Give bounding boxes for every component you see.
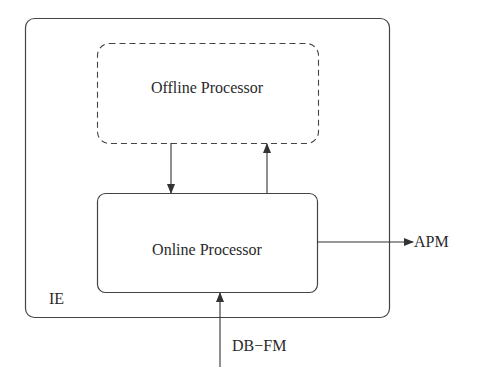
apm-label: APM <box>414 234 449 250</box>
ie-container-box <box>26 19 390 318</box>
diagram-canvas <box>0 0 481 387</box>
ie-container-label: IE <box>49 291 64 307</box>
offline-processor-label: Offline Processor <box>151 80 263 96</box>
dbfm-label: DB−FM <box>232 338 286 354</box>
online-processor-label: Online Processor <box>152 242 262 258</box>
